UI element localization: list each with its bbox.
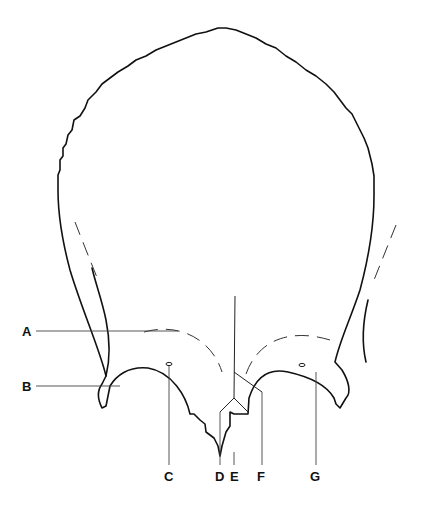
label-A: A bbox=[22, 325, 31, 338]
label-D: D bbox=[215, 470, 224, 483]
left-arch-dash bbox=[144, 329, 222, 372]
left-lateral-dash bbox=[75, 222, 98, 280]
label-E: E bbox=[230, 470, 239, 483]
outer-border bbox=[58, 28, 374, 456]
right-lateral-dash bbox=[372, 225, 396, 285]
bone-outline-drawing bbox=[0, 0, 438, 508]
label-G: G bbox=[310, 470, 320, 483]
right-foramen bbox=[299, 363, 305, 366]
suture-lines bbox=[220, 372, 262, 412]
label-B: B bbox=[22, 380, 31, 393]
right-arch-dash bbox=[246, 335, 330, 374]
left-foramen bbox=[166, 362, 172, 365]
right-inner-curve bbox=[363, 300, 368, 362]
label-C: C bbox=[164, 470, 173, 483]
midline bbox=[234, 296, 235, 398]
label-F: F bbox=[257, 470, 265, 483]
